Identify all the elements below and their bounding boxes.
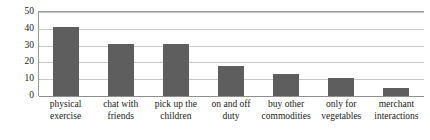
x-axis-category-label-line: interactions: [363, 111, 430, 123]
gridline-30: [39, 46, 424, 47]
gridline-0: [39, 96, 424, 97]
gridline-50: [39, 12, 424, 13]
x-axis-category-label: merchantinteractions: [363, 99, 430, 122]
y-axis-tick-label: 30: [25, 41, 35, 51]
y-axis-tick-label: 20: [25, 58, 35, 68]
gridline-10: [39, 79, 424, 80]
plot-area: 01020304050: [38, 11, 424, 96]
bar-chart: 01020304050 physicalexercisechat withfri…: [0, 0, 430, 140]
x-axis-category-label-line: merchant: [363, 99, 430, 111]
gridline-20: [39, 62, 424, 63]
y-axis-tick-label: 40: [25, 24, 35, 34]
gridline-40: [39, 29, 424, 30]
y-axis-tick-label: 50: [25, 7, 35, 17]
x-axis-labels: physicalexercisechat withfriendspick up …: [38, 99, 424, 139]
y-axis-tick-label: 10: [25, 74, 35, 84]
